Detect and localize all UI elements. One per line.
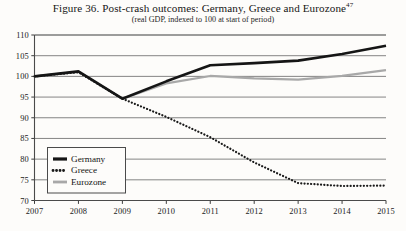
y-axis-tick-label: 90 <box>20 114 29 123</box>
legend-label-germany: Germany <box>71 154 106 164</box>
y-axis-tick-label: 75 <box>20 176 29 185</box>
x-axis-tick-label: 2007 <box>26 207 44 216</box>
line-chart: 110105100959085807570 200720082009201020… <box>0 0 406 231</box>
x-axis-tick-label: 2014 <box>333 207 351 216</box>
y-axis-tick-label: 110 <box>16 31 29 40</box>
x-axis-tick-label: 2012 <box>245 207 263 216</box>
y-axis-tick-label: 85 <box>20 134 29 143</box>
y-axis-labels-group: 110105100959085807570 <box>16 31 29 206</box>
series-line-eurozone <box>35 70 387 99</box>
y-axis-tick-label: 80 <box>20 155 29 164</box>
y-axis-tick-label: 70 <box>20 197 29 206</box>
x-axis-labels-group: 200720082009201020112012201320142015 <box>26 207 395 216</box>
x-axis-tick-label: 2011 <box>202 207 219 216</box>
x-axis-tick-label: 2015 <box>377 207 395 216</box>
x-axis-tick-label: 2008 <box>70 207 88 216</box>
legend-label-eurozone: Eurozone <box>71 177 106 187</box>
series-line-germany <box>35 46 387 99</box>
y-axis-tick-label: 105 <box>16 52 29 61</box>
chart-legend: GermanyGreeceEurozone <box>48 148 126 194</box>
x-axis-tick-label: 2013 <box>289 207 307 216</box>
legend-label-greece: Greece <box>71 165 97 175</box>
y-axis-tick-label: 95 <box>20 93 29 102</box>
figure-container: Figure 36. Post-crash outcomes: Germany,… <box>0 0 406 231</box>
x-axis-tick-label: 2010 <box>158 207 176 216</box>
x-axis-tick-label: 2009 <box>114 207 132 216</box>
y-axis-tick-label: 100 <box>16 72 29 81</box>
